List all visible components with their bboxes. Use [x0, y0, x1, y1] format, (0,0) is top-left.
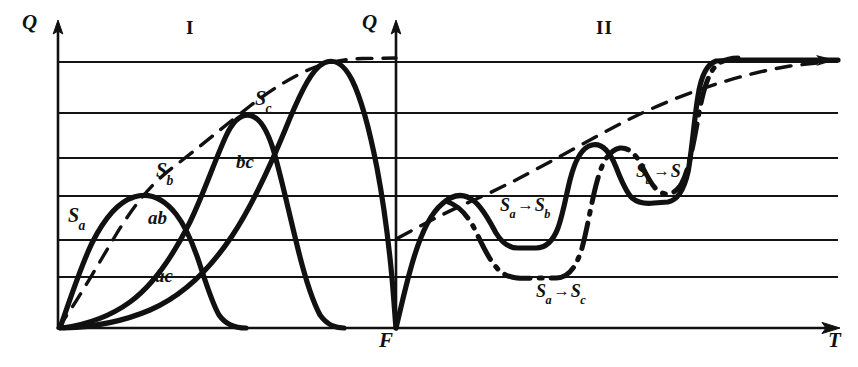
transition-label-a-to-b: Sa→Sb [500, 196, 551, 218]
curve-branch-II-dashdot [448, 58, 738, 278]
arrow-icon: → [552, 281, 571, 300]
crossing-label-bc: bc [236, 152, 254, 171]
y-axis-left-label: Q [22, 12, 37, 33]
curve-label-sa: Sa [68, 205, 86, 230]
x-axis-label: T [828, 330, 841, 351]
curve-sc [64, 61, 396, 328]
arrow-icon: → [516, 195, 535, 214]
curve-label-sb: Sb [156, 160, 174, 185]
transition-label-b-to-c: Sb→Sc [636, 162, 686, 184]
transition-label-a-to-c: Sa→Sc [536, 282, 586, 304]
curve-label-sc: Sc [255, 88, 272, 113]
panel-label-II: II [596, 18, 613, 37]
plot-svg [0, 0, 858, 367]
crossing-label-ab: ab [148, 208, 167, 227]
envelope-dashed-panel-I [58, 58, 396, 328]
y-axis-center-label: Q [362, 12, 377, 33]
curve-response-II [396, 60, 838, 328]
crossing-label-ac: ac [155, 266, 173, 285]
origin-marker-label: F [379, 330, 393, 351]
figure-canvas: Q Q T F I II Sa Sb Sc ab ac bc Sa→Sb Sb→… [0, 0, 858, 367]
panel-label-I: I [186, 18, 194, 37]
arrow-icon: → [652, 161, 671, 180]
